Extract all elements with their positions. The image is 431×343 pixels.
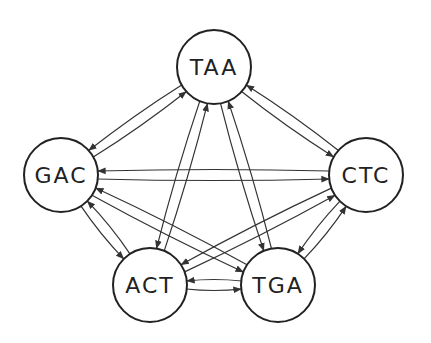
node-label: ACT [125,273,174,298]
edge-gac-to-act [81,206,124,260]
edge-taa-to-ctc [241,91,334,157]
edge-gac-to-taa [93,91,187,157]
node-taa[interactable]: TAA [177,30,251,104]
node-ctc[interactable]: CTC [329,138,403,212]
edge-taa-to-gac [88,85,182,151]
node-label: GAC [34,163,87,188]
edge-taa-to-act [156,101,200,249]
edge-taa-to-tga [220,103,264,251]
edge-tga-to-act [186,280,241,282]
edge-act-to-gac [87,201,130,255]
edges-layer [81,85,347,291]
edge-tga-to-taa [228,101,272,249]
edge-ctc-to-taa [246,85,339,151]
edge-act-to-taa [164,103,208,251]
edge-ctc-to-gac [97,170,329,172]
edge-act-to-tga [186,289,241,291]
node-act[interactable]: ACT [113,248,187,322]
node-tga[interactable]: TGA [241,248,315,322]
edge-gac-to-ctc [97,179,329,181]
node-label: TAA [189,55,238,80]
nodes-layer: TAA GAC CTC ACT TGA [24,30,403,322]
node-label: CTC [342,163,391,188]
codon-graph: TAA GAC CTC ACT TGA [0,0,431,343]
node-label: TGA [251,273,304,298]
edge-tga-to-ctc [304,206,347,259]
edge-ctc-to-tga [298,201,341,254]
node-gac[interactable]: GAC [24,138,98,212]
